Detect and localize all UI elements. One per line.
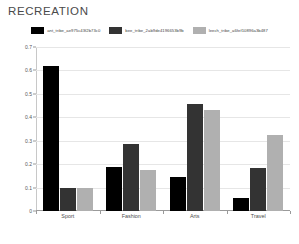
bar-groups: [36, 47, 290, 211]
y-tick-label: 0.2: [25, 161, 32, 167]
x-tick-mark: [100, 211, 101, 214]
legend-item-label: leech_tribe_a6fef10896a3b487: [209, 28, 268, 34]
y-tick-label: 0.6: [25, 67, 32, 73]
bar[interactable]: [204, 110, 220, 211]
page-title: RECREATION: [8, 5, 89, 17]
plot-area: 00.10.20.30.40.50.60.7: [36, 47, 290, 211]
x-tick-mark: [227, 211, 228, 214]
bar[interactable]: [106, 167, 122, 212]
x-tick-mark: [36, 211, 37, 214]
legend-swatch-icon: [31, 27, 44, 34]
x-tick-mark: [163, 211, 164, 214]
y-tick-label: 0.4: [25, 114, 32, 120]
x-tick-mark: [290, 211, 291, 214]
bar[interactable]: [233, 198, 249, 211]
y-tick-label: 0.7: [25, 44, 32, 50]
legend-swatch-icon: [193, 27, 206, 34]
bar-group: [170, 47, 220, 211]
bar[interactable]: [77, 188, 93, 211]
legend-item[interactable]: leech_tribe_a6fef10896a3b487: [193, 27, 268, 34]
bar[interactable]: [60, 188, 76, 211]
bar[interactable]: [267, 135, 283, 211]
bar[interactable]: [123, 144, 139, 211]
y-tick-label: 0.1: [25, 185, 32, 191]
bar[interactable]: [187, 104, 203, 211]
legend-item[interactable]: ant_tribe_ae975c43f2b73c0: [31, 27, 100, 34]
y-tick-label: 0: [29, 208, 32, 214]
legend-swatch-icon: [109, 27, 122, 34]
y-tick-label: 0.3: [25, 138, 32, 144]
bar[interactable]: [170, 177, 186, 211]
x-tick-label: Travel: [227, 213, 291, 219]
legend-item-label: ant_tribe_ae975c43f2b73c0: [47, 28, 100, 34]
bar[interactable]: [250, 168, 266, 211]
chart-figure: RECREATION ant_tribe_ae975c43f2b73c0bee_…: [0, 0, 299, 244]
x-tick-label: Arts: [163, 213, 227, 219]
bar-group: [106, 47, 156, 211]
legend-item[interactable]: bee_tribe_2ab9de4196653b9b: [109, 27, 183, 34]
legend-item-label: bee_tribe_2ab9de4196653b9b: [125, 28, 183, 34]
bar-group: [43, 47, 93, 211]
bar[interactable]: [43, 66, 59, 211]
bar-group: [233, 47, 283, 211]
x-tick-label: Fashion: [100, 213, 164, 219]
y-tick-label: 0.5: [25, 91, 32, 97]
chart-legend: ant_tribe_ae975c43f2b73c0bee_tribe_2ab9d…: [0, 27, 299, 34]
x-tick-label: Sport: [36, 213, 100, 219]
bar[interactable]: [140, 170, 156, 211]
